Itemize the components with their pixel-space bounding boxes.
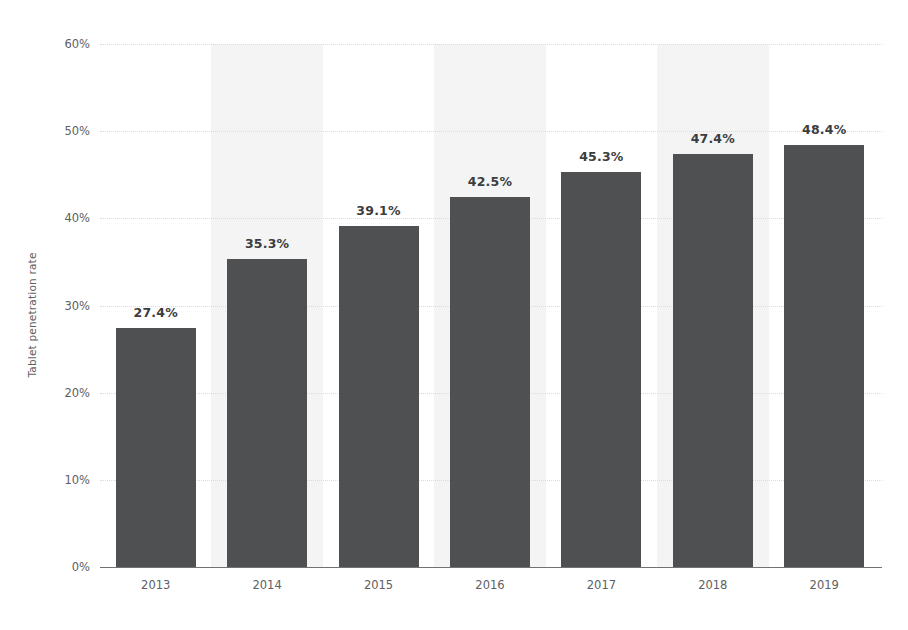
bar[interactable] <box>784 145 864 567</box>
y-axis-tick-label: 60% <box>64 37 90 51</box>
x-axis-line <box>100 567 882 568</box>
bar-slot: 42.5% <box>434 44 545 567</box>
bar-slot: 39.1% <box>323 44 434 567</box>
bar[interactable] <box>227 259 307 567</box>
bar-value-label: 39.1% <box>356 203 400 218</box>
bar-slot: 47.4% <box>657 44 768 567</box>
bar-value-label: 45.3% <box>579 149 623 164</box>
bar-slot: 48.4% <box>769 44 880 567</box>
y-axis-tick-label: 20% <box>64 386 90 400</box>
x-axis-tick-label: 2018 <box>657 578 768 592</box>
x-axis-tick-label: 2013 <box>100 578 211 592</box>
bar[interactable] <box>561 172 641 567</box>
y-axis-tick-labels: 0%10%20%30%40%50%60% <box>0 0 100 630</box>
bar[interactable] <box>339 226 419 567</box>
bar-value-label: 42.5% <box>468 174 512 189</box>
bar-slot: 35.3% <box>211 44 322 567</box>
bar-value-label: 27.4% <box>134 305 178 320</box>
y-axis-tick-label: 50% <box>64 124 90 138</box>
plot-area: 27.4%35.3%39.1%42.5%45.3%47.4%48.4% <box>100 44 880 567</box>
bar-value-label: 35.3% <box>245 236 289 251</box>
bar-slot: 45.3% <box>546 44 657 567</box>
bar[interactable] <box>673 154 753 567</box>
y-axis-tick-label: 0% <box>72 560 90 574</box>
y-axis-tick-label: 10% <box>64 473 90 487</box>
bar-value-label: 47.4% <box>691 131 735 146</box>
y-axis-tick-label: 40% <box>64 211 90 225</box>
bar[interactable] <box>116 328 196 567</box>
bars-layer: 27.4%35.3%39.1%42.5%45.3%47.4%48.4% <box>100 44 880 567</box>
x-axis-tick-label: 2017 <box>546 578 657 592</box>
y-axis-tick-label: 30% <box>64 299 90 313</box>
x-axis-tick-label: 2016 <box>434 578 545 592</box>
x-axis-tick-label: 2019 <box>769 578 880 592</box>
bar-slot: 27.4% <box>100 44 211 567</box>
x-axis-tick-labels: 2013201420152016201720182019 <box>100 578 880 592</box>
bar-value-label: 48.4% <box>802 122 846 137</box>
x-axis-tick-label: 2014 <box>211 578 322 592</box>
bar-chart: Tablet penetration rate 0%10%20%30%40%50… <box>0 0 908 630</box>
y-axis-title-text: Tablet penetration rate <box>26 252 38 377</box>
x-axis-tick-label: 2015 <box>323 578 434 592</box>
y-axis-title: Tablet penetration rate <box>22 0 42 630</box>
bar[interactable] <box>450 197 530 567</box>
